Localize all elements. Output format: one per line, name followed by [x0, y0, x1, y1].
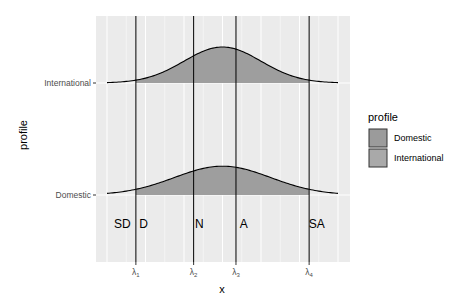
legend: profile DomesticInternational: [368, 111, 444, 167]
annotation-a: A: [240, 217, 248, 231]
y-tick-label-international: International: [44, 78, 91, 88]
x-axis: λ1λ2λ3λ4: [132, 262, 314, 278]
legend-key-domestic: [369, 129, 387, 147]
density-chart: SDDNASA DomesticInternational λ1λ2λ3λ4 x…: [0, 0, 470, 302]
x-tick-label-lambda3: λ3: [232, 267, 240, 278]
x-tick-label-lambda4: λ4: [305, 267, 313, 278]
annotation-n: N: [195, 217, 204, 231]
legend-title: profile: [368, 111, 398, 123]
annotation-d: D: [139, 217, 148, 231]
legend-label-domestic: Domestic: [394, 133, 432, 143]
legend-key-international: [369, 149, 387, 167]
x-axis-title: x: [219, 283, 225, 295]
y-axis: DomesticInternational: [44, 78, 96, 200]
y-axis-title: profile: [17, 120, 29, 150]
legend-label-international: International: [394, 153, 444, 163]
y-tick-label-domestic: Domestic: [56, 190, 92, 200]
annotation-sa: SA: [309, 217, 325, 231]
annotation-sd: SD: [114, 217, 131, 231]
x-tick-label-lambda2: λ2: [190, 267, 198, 278]
x-tick-label-lambda1: λ1: [132, 267, 140, 278]
